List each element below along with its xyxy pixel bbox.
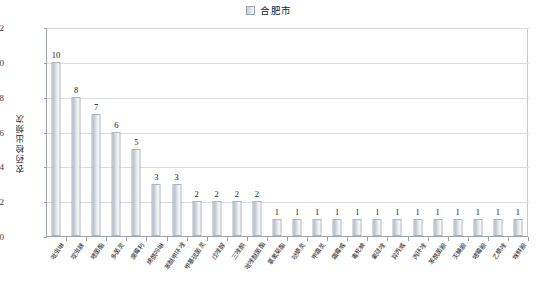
bar-slot: 2 xyxy=(187,28,207,236)
bar-slot: 1 xyxy=(408,28,428,236)
bar[interactable] xyxy=(152,184,161,236)
bar-value-label: 1 xyxy=(395,207,399,217)
bar[interactable] xyxy=(433,219,442,236)
bar[interactable] xyxy=(293,219,302,236)
bar-value-label: 1 xyxy=(375,207,379,217)
bar-slot: 1 xyxy=(488,28,508,236)
x-axis-label: 甲基硫菌灵 xyxy=(182,241,205,271)
y-tick-label: 12 xyxy=(0,23,4,33)
bar-slot: 1 xyxy=(448,28,468,236)
bar-value-label: 3 xyxy=(154,172,158,182)
bar[interactable] xyxy=(513,219,522,236)
y-tick-label: 2 xyxy=(0,197,4,207)
x-axis-label: 哒螨灵 xyxy=(290,241,306,260)
bar-value-label: 3 xyxy=(174,172,178,182)
bar-value-label: 1 xyxy=(456,207,460,217)
bar-slot: 2 xyxy=(207,28,227,236)
bar-slot: 1 xyxy=(307,28,327,236)
bar-value-label: 1 xyxy=(335,207,339,217)
bar-value-label: 8 xyxy=(74,85,78,95)
bar-slot: 6 xyxy=(106,28,126,236)
bar-slot: 1 xyxy=(428,28,448,236)
bar-value-label: 2 xyxy=(194,189,198,199)
chart-legend: 合肥市 xyxy=(0,3,538,17)
bar-slot: 3 xyxy=(167,28,187,236)
bar-value-label: 1 xyxy=(355,207,359,217)
bar-slot: 10 xyxy=(46,28,66,236)
bar[interactable] xyxy=(172,184,181,236)
bar-slot: 1 xyxy=(347,28,367,236)
x-tick-mark xyxy=(528,237,529,241)
x-axis-label: 乙螨唑 xyxy=(490,241,506,260)
bar-value-label: 1 xyxy=(516,207,520,217)
chart-container: 合肥市 农药检出频次 1087653322221111111111111 吡虫啉… xyxy=(0,0,538,304)
x-axis-label: 烯酰吗啉 xyxy=(146,241,166,265)
bar-slot: 8 xyxy=(66,28,86,236)
bar[interactable] xyxy=(373,219,382,236)
y-tick-label: 8 xyxy=(0,93,4,103)
bar-slot: 1 xyxy=(468,28,488,236)
bar[interactable] xyxy=(493,219,502,236)
bar-value-label: 7 xyxy=(94,102,98,112)
x-axis-label: 毒死蜱 xyxy=(350,241,366,260)
bar-slot: 2 xyxy=(247,28,267,236)
bar-value-label: 1 xyxy=(295,207,299,217)
bar[interactable] xyxy=(473,219,482,236)
bar-slot: 1 xyxy=(508,28,528,236)
x-axis-label: 戊唑醇 xyxy=(209,241,225,260)
bar-value-label: 1 xyxy=(415,207,419,217)
bar-value-label: 1 xyxy=(435,207,439,217)
bar[interactable] xyxy=(92,114,101,236)
x-axis-label: 腐霉利 xyxy=(129,241,145,260)
bar[interactable] xyxy=(192,201,201,236)
bar[interactable] xyxy=(52,62,61,236)
bar-value-label: 1 xyxy=(275,207,279,217)
bar[interactable] xyxy=(212,201,221,236)
bars-layer: 1087653322221111111111111 xyxy=(46,28,528,236)
bar-slot: 3 xyxy=(146,28,166,236)
y-tick-label: 6 xyxy=(0,128,4,138)
x-axis-label: 甲霜灵 xyxy=(310,241,326,260)
bar[interactable] xyxy=(393,219,402,236)
y-tick-label: 10 xyxy=(0,58,4,68)
x-axis-label: 嘧菌酯 xyxy=(89,241,105,260)
bar[interactable] xyxy=(132,149,141,236)
bar[interactable] xyxy=(353,219,362,236)
bar-value-label: 2 xyxy=(255,189,259,199)
x-axis-label: 苯酰菌胺 xyxy=(427,241,447,265)
bar[interactable] xyxy=(313,219,322,236)
bar[interactable] xyxy=(72,97,81,236)
x-axis-labels: 吡虫啉啶虫脒嘧菌酯多菌灵腐霉利烯酰吗啉苯醚甲环唑甲基硫菌灵戊唑醇三唑酮吡唑醚菌酯… xyxy=(46,241,528,303)
bar[interactable] xyxy=(112,132,121,237)
x-axis-label: 三唑酮 xyxy=(229,241,245,260)
y-tick-label: 4 xyxy=(0,162,4,172)
x-axis-label: 氟硅唑 xyxy=(370,241,386,260)
x-axis-label: 多菌灵 xyxy=(109,241,125,260)
bar-value-label: 2 xyxy=(235,189,239,199)
bar-slot: 1 xyxy=(267,28,287,236)
bar[interactable] xyxy=(272,219,281,236)
bar[interactable] xyxy=(413,219,422,236)
bar[interactable] xyxy=(453,219,462,236)
x-axis-label: 灭蝇胺 xyxy=(450,241,466,260)
legend-label: 合肥市 xyxy=(260,3,292,17)
bar-value-label: 6 xyxy=(114,120,118,130)
bar[interactable] xyxy=(252,201,261,236)
bar-slot: 1 xyxy=(367,28,387,236)
bar-slot: 7 xyxy=(86,28,106,236)
bar-slot: 1 xyxy=(387,28,407,236)
x-axis-label: 氯氰菊酯 xyxy=(266,241,286,265)
bar-value-label: 10 xyxy=(52,50,61,60)
x-axis-label: 嘧霉胺 xyxy=(470,241,486,260)
x-axis-label: 异丙威 xyxy=(390,241,406,260)
bar-value-label: 1 xyxy=(476,207,480,217)
bar-value-label: 2 xyxy=(215,189,219,199)
bar-value-label: 5 xyxy=(134,137,138,147)
bar[interactable] xyxy=(333,219,342,236)
bar[interactable] xyxy=(232,201,241,236)
bar-slot: 2 xyxy=(227,28,247,236)
y-axis-title: 农药检出频次 xyxy=(14,78,28,208)
y-tick-label: 0 xyxy=(0,232,4,242)
x-axis-label: 吡虫啉 xyxy=(49,241,65,260)
x-axis-label: 丙环唑 xyxy=(410,241,426,260)
